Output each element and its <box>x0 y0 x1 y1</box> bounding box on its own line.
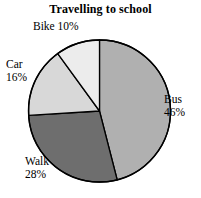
pie-label-walk: Walk 28% <box>25 155 49 180</box>
pie-slices <box>28 40 170 182</box>
pie-chart-figure: Travelling to school Bike 10% Car 16% Bu… <box>0 0 201 198</box>
pie-label-bus-percent: 46% <box>164 106 185 119</box>
pie-label-car-percent: 16% <box>6 71 27 84</box>
pie-label-bike: Bike 10% <box>33 20 79 33</box>
pie-label-car-name: Car <box>6 58 27 71</box>
pie-label-bike-text: Bike 10% <box>33 20 79 33</box>
pie-label-bus: Bus 46% <box>164 93 185 118</box>
pie-label-car: Car 16% <box>6 58 27 83</box>
pie-label-walk-name: Walk <box>25 155 49 168</box>
pie-label-bus-name: Bus <box>164 93 185 106</box>
pie-label-walk-percent: 28% <box>25 168 49 181</box>
